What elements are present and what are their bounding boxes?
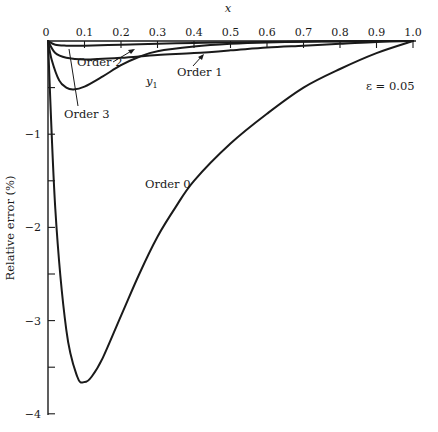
x-tick-label: 0.3 xyxy=(149,26,167,39)
x-tick-label: 0 xyxy=(43,26,50,39)
y-tick-label: −3 xyxy=(25,315,41,328)
x-axis-title: x xyxy=(225,1,232,15)
x-tick-label: 0.1 xyxy=(76,26,94,39)
relative-error-chart: 00.10.20.30.40.50.60.70.80.91.0 −1−2−3−4… xyxy=(0,0,438,432)
x-tick-label: 0.7 xyxy=(295,26,313,39)
order2-label: Order 2 xyxy=(77,55,123,69)
y-axis-ticks: −1−2−3−4 xyxy=(25,88,55,421)
x-tick-label: 0.8 xyxy=(331,26,349,39)
x-tick-label: 1.0 xyxy=(404,26,422,39)
order1-label: Order 1 xyxy=(177,65,223,79)
annotations: Order 2 Order 1 y1 Order 3 Order 0 ε = 0… xyxy=(64,49,415,191)
y-tick-label: −1 xyxy=(25,128,41,141)
y1-label: y1 xyxy=(145,74,158,90)
series-curves xyxy=(48,41,413,383)
curve-order-0 xyxy=(48,41,413,383)
x-tick-label: 0.2 xyxy=(112,26,130,39)
y-tick-label: −4 xyxy=(25,408,41,421)
y-axis-title: Relative error (%) xyxy=(3,175,17,280)
order0-label: Order 0 xyxy=(145,177,191,191)
y-tick-label: −2 xyxy=(25,221,41,234)
x-tick-label: 0.5 xyxy=(222,26,240,39)
x-tick-label: 0.4 xyxy=(185,26,203,39)
x-tick-label: 0.6 xyxy=(258,26,276,39)
order3-label: Order 3 xyxy=(64,107,110,121)
epsilon-annotation: ε = 0.05 xyxy=(366,79,415,93)
order2-arrowhead-icon xyxy=(128,49,135,54)
x-tick-label: 0.9 xyxy=(368,26,386,39)
